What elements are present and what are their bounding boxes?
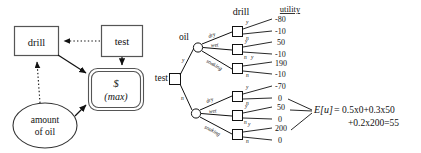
node-amount-of-oil[interactable]: [13, 103, 77, 148]
figure-svg: drill test $ (max) amount of oil: [0, 0, 421, 153]
tree-utility-value-1: -80: [275, 15, 286, 24]
tree-drill-branch-y-l2: y: [244, 103, 248, 109]
tree-leaf-edge-10: [243, 118, 272, 119]
edge-drill-to-utility: [58, 55, 86, 73]
tree-leaf-edge-4: [243, 52, 272, 54]
tree-chance-node-lower[interactable]: [191, 109, 200, 118]
tree-branch-label-wet-upper: wet: [211, 41, 220, 48]
tree-drill-branch-y-l1: y: [245, 84, 249, 90]
tree-utility-value-3: 50: [277, 38, 285, 47]
tree-utility-value-11: 200: [275, 124, 287, 133]
tree-drill-branch-y-u2: y: [244, 38, 248, 44]
tree-leaf-edge-5: [243, 62, 272, 66]
tree-root-branch-y-label: y: [181, 57, 185, 63]
tree-node-drill-u3[interactable]: [233, 64, 243, 74]
expectation-lhs-label: E[u]: [313, 104, 333, 115]
influence-diagram: drill test $ (max) amount of oil: [13, 26, 144, 149]
tree-leaf-edge-2: [243, 31, 272, 34]
tree-drill-branch-y-l3: y: [247, 121, 251, 127]
tree-utility-value-12: 0: [278, 136, 282, 145]
tree-drill-branch-n-l3: n: [246, 138, 249, 144]
tree-node-drill-l2[interactable]: [233, 111, 243, 121]
tree-edge-lower-wet: [201, 114, 232, 117]
tree-branch-label-wet-lower: wet: [209, 107, 218, 114]
tree-branch-label-dry-upper: dry: [207, 31, 216, 39]
tree-utility-value-5: 190: [275, 59, 287, 68]
expectation-fan-line-top: [288, 99, 312, 110]
tree-utility-value-8: 0: [278, 94, 282, 103]
tree-chance-node-oil[interactable]: [193, 43, 202, 52]
edge-oil-to-drill: [37, 62, 40, 103]
tree-header-utility: utility: [280, 4, 301, 14]
tree-chance-node-oil-label: oil: [179, 32, 189, 42]
tree-leaf-edge-8: [243, 98, 272, 99]
node-amount-of-oil-label-line2: of oil: [35, 127, 56, 137]
tree-branch-label-soaking-lower: soaking: [204, 124, 222, 137]
node-test-decision-label: test: [115, 36, 130, 47]
tree-drill-branch-n-l2: n: [244, 119, 247, 125]
edge-oil-to-utility: [75, 105, 86, 116]
tree-node-drill-u1[interactable]: [233, 27, 243, 37]
tree-utility-value-10: 0: [278, 115, 282, 124]
tree-utility-value-2: -10: [275, 27, 286, 36]
tree-node-drill-l3[interactable]: [233, 130, 243, 140]
figure-canvas: drill test $ (max) amount of oil: [0, 0, 421, 153]
tree-edge-oil-wet: [203, 48, 232, 51]
tree-root-label: test: [155, 73, 169, 83]
decision-tree: drill utility test y n oil dry wet soaki…: [155, 4, 400, 145]
tree-branch-label-dry-lower: dry: [205, 95, 215, 104]
tree-header-drill: drill: [233, 6, 250, 17]
expectation-line1: 0.5x0+0.3x50: [342, 105, 395, 115]
tree-node-test-decision[interactable]: [170, 74, 181, 85]
tree-branch-label-soaking-upper: soaking: [206, 58, 224, 72]
node-amount-of-oil-label-line1: amount: [31, 115, 60, 125]
tree-drill-branch-n-u2: n: [244, 54, 247, 60]
node-utility-currency-label: $: [113, 77, 119, 89]
expectation-fan-line-mid: [290, 110, 312, 111]
expectation-equals-sign: =: [334, 104, 340, 115]
expectation-line2: +0.2x200=55: [348, 118, 399, 128]
node-drill-decision-label: drill: [28, 37, 46, 48]
tree-drill-branch-y-u1: y: [245, 19, 249, 25]
tree-utility-value-7: -70: [275, 82, 286, 91]
tree-root-branch-n-label: n: [181, 95, 184, 101]
tree-node-drill-u2[interactable]: [233, 45, 243, 55]
tree-node-drill-l1[interactable]: [233, 92, 243, 102]
tree-leaf-edge-11: [243, 128, 272, 132]
expectation-fan-line-bot: [291, 113, 312, 130]
tree-utility-value-9: 50: [277, 103, 285, 112]
tree-utility-value-4: -10: [275, 50, 286, 59]
tree-utility-value-6: -10: [275, 70, 286, 79]
node-utility-mode-label: (max): [104, 91, 128, 103]
tree-drill-branch-n-u3: n: [246, 72, 249, 78]
tree-drill-branch-y-u3: y: [250, 54, 254, 60]
